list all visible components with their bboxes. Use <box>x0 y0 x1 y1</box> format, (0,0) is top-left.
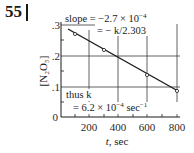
chart: slope = −2.7 × 10−4 = − k/2.303 thus k =… <box>0 0 194 153</box>
y-tick-0.1: .1 <box>52 81 60 93</box>
x-tick-800: 800 <box>169 121 186 133</box>
annotation-k-over-2303: = − k/2.303 <box>97 25 146 36</box>
annotation-thus-k: thus k <box>66 89 92 100</box>
x-tick-600: 600 <box>139 121 156 133</box>
x-axis-label: t, sec <box>106 135 129 147</box>
x-tick-200: 200 <box>81 121 98 133</box>
data-point <box>102 48 105 51</box>
y-tick-0.2: .2 <box>52 50 60 62</box>
y-tick-0: 0 <box>53 111 59 123</box>
x-tick-400: 400 <box>110 121 127 133</box>
y-axis-label: [N₂O₅] <box>37 56 49 87</box>
data-point <box>73 32 76 35</box>
annotation-k-value: = 6.2 × 10−4 sec−1 <box>73 101 148 113</box>
data-point <box>145 73 148 76</box>
data-point <box>175 89 178 92</box>
fitted-line <box>68 29 178 91</box>
annotation-slope: slope = −2.7 × 10−4 <box>65 12 147 24</box>
y-tick-0.3: .3 <box>52 19 61 31</box>
